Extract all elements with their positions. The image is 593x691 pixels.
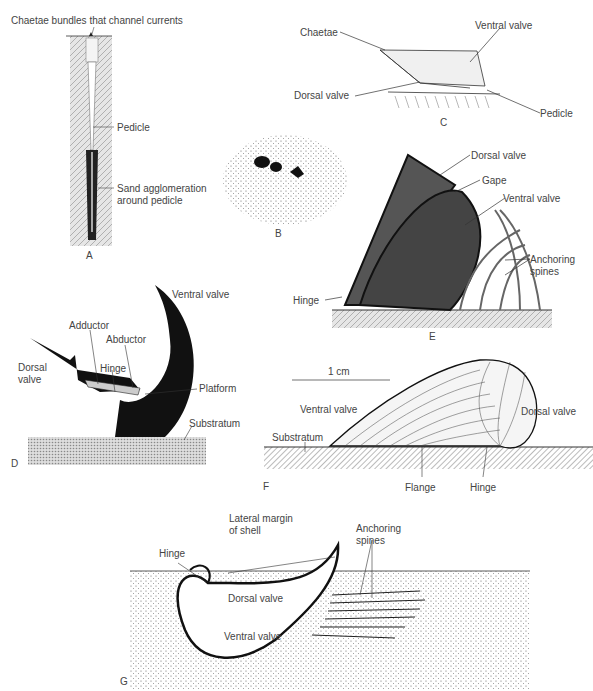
panel-a-letter: A [86,250,93,261]
panel-g-anchoring-label-2: spines [356,535,385,546]
panel-g-ventral-label: Ventral valve [224,631,281,642]
panel-e-anchoring-label-1: Anchoring [530,254,575,265]
panel-d-platform-label: Platform [199,383,236,394]
panel-g-lateral-label-1: Lateral margin [229,513,293,524]
panel-d-dorsal-label-1: Dorsal [18,362,47,373]
panel-f-hinge-label: Hinge [470,482,496,493]
panel-c-pedicle-label: Pedicle [540,108,573,119]
panel-d-letter: D [11,458,18,469]
panel-c-ventral-label: Ventral valve [475,20,532,31]
panel-e-letter: E [429,331,436,342]
panel-f-dorsal-label: Dorsal valve [521,406,576,417]
panel-a-sand-label-1: Sand agglomeration [117,183,207,194]
panel-f-drawing [264,360,593,477]
panel-d-adductor-label: Adductor [69,320,109,331]
panel-d-substratum-label: Substratum [189,418,240,429]
panel-f-scale-label: 1 cm [328,366,350,377]
panel-e-ventral-label: Ventral valve [503,193,560,204]
panel-c-drawing [340,28,540,113]
panel-e-dorsal-label: Dorsal valve [471,150,526,161]
panel-e-drawing [325,155,552,328]
panel-c-dorsal-label: Dorsal valve [294,90,349,101]
panel-g-letter: G [120,676,128,687]
panel-g-lateral-label-2: of shell [229,525,261,536]
panel-d-abductor-label: Abductor [106,334,146,345]
panel-b-letter: B [275,228,282,239]
panel-g-anchoring-label-1: Anchoring [356,523,401,534]
panel-e-gape-label: Gape [482,175,506,186]
panel-c-chaetae-label: Chaetae [300,27,338,38]
panel-a-pedicle-label: Pedicle [117,122,150,133]
panel-d-drawing [28,285,206,465]
panel-f-ventral-label: Ventral valve [300,404,357,415]
panel-g-dorsal-label: Dorsal valve [228,593,283,604]
panel-b-drawing [223,135,347,225]
diagram-artwork [0,0,593,691]
panel-g-drawing [130,540,530,689]
panel-c-letter: C [440,117,447,128]
panel-f-letter: F [263,481,269,492]
panel-e-hinge-label: Hinge [293,295,319,306]
panel-d-dorsal-label-2: valve [18,374,41,385]
panel-g-hinge-label: Hinge [159,548,185,559]
panel-d-hinge-label: Hinge [100,363,126,374]
panel-a-sand-label-2: around pedicle [117,195,183,206]
panel-a-chaetae-label: Chaetae bundles that channel currents [11,15,183,26]
panel-f-substratum-label: Substratum [272,432,323,443]
panel-d-ventral-label: Ventral valve [172,289,229,300]
panel-e-anchoring-label-2: spines [530,266,559,277]
panel-a-drawing [66,27,114,246]
panel-f-flange-label: Flange [405,482,436,493]
